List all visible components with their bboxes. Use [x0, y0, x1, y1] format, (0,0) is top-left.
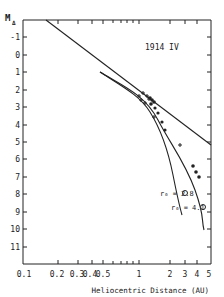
svg-text:0.1: 0.1: [17, 270, 32, 279]
svg-text:4: 4: [15, 121, 20, 130]
svg-text:4: 4: [195, 270, 200, 279]
observation-plus-markers: [137, 91, 182, 147]
observation-dot-markers: [148, 96, 201, 179]
svg-text:5: 5: [15, 138, 20, 147]
chart: -1 0 1 2 3 4 5 6 7 8 9 10 11 0.1 0.2 0.3…: [0, 0, 224, 297]
svg-text:11: 11: [10, 243, 20, 252]
svg-text:-1: -1: [10, 33, 20, 42]
svg-text:6: 6: [15, 155, 20, 164]
x-ticks-top: [58, 20, 197, 24]
svg-text:3: 3: [183, 270, 188, 279]
svg-text:0: 0: [15, 51, 20, 60]
plot-frame: [23, 20, 211, 264]
x-axis-label: Heliocentric Distance (AU): [92, 286, 209, 295]
svg-text:3: 3: [15, 103, 20, 112]
svg-text:2: 2: [168, 270, 173, 279]
y-ticks: [23, 37, 27, 247]
svg-text:10: 10: [10, 225, 20, 234]
x-ticks: [58, 260, 197, 264]
svg-text:8: 8: [15, 190, 20, 199]
svg-text:0.5: 0.5: [96, 270, 111, 279]
chart-title: 1914 IV: [145, 43, 179, 52]
svg-text:0.2: 0.2: [50, 270, 65, 279]
y-axis-label: M: [5, 13, 11, 23]
linear-fit-line: [46, 20, 211, 145]
svg-text:9: 9: [15, 208, 20, 217]
svg-text:2: 2: [15, 86, 20, 95]
svg-text:5: 5: [207, 270, 212, 279]
x-tick-labels: 0.1 0.2 0.3 0.4 0.5 1 2 3 4 5: [17, 270, 212, 279]
svg-text:1: 1: [137, 270, 142, 279]
y-tick-labels: -1 0 1 2 3 4 5 6 7 8 9 10 11: [10, 33, 20, 252]
svg-text:1: 1: [15, 68, 20, 77]
svg-text:7: 7: [15, 173, 20, 182]
y-axis-label-sub: Δ: [12, 19, 16, 26]
curve-label-4.1: r₀ = 4.1: [171, 204, 205, 212]
curve-label-2.8: r₀ = 2.8: [160, 190, 194, 198]
